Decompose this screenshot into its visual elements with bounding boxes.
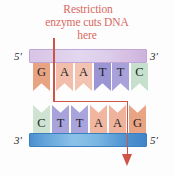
caption-text: Restriction enzyme cuts DNA here [0, 3, 174, 43]
top-base-2: A [56, 63, 73, 91]
top-base-5-letter: T [112, 66, 129, 79]
cut-line-vertical-right [127, 101, 129, 157]
top-base-6: C [131, 63, 148, 91]
top-base-4-letter: T [94, 66, 111, 79]
top-base-2-letter: A [56, 66, 73, 79]
bottom-strand-five-prime-label: 5' [150, 134, 158, 146]
top-base-6-letter: C [131, 66, 148, 79]
cut-line-vertical-left [53, 38, 55, 102]
top-strand-backbone [29, 49, 147, 63]
bottom-base-3: T [71, 105, 88, 133]
caption-line-1: Restriction [0, 3, 174, 16]
bottom-base-4-letter: A [90, 117, 107, 130]
caption-line-3: here [0, 29, 174, 42]
bottom-base-2: T [52, 105, 69, 133]
bottom-base-5-letter: A [109, 117, 126, 130]
top-base-4: T [94, 63, 111, 91]
bottom-base-5: A [109, 105, 126, 133]
top-base-1-letter: G [33, 66, 50, 79]
caption-line-2: enzyme cuts DNA [0, 16, 174, 29]
bottom-base-1-letter: C [33, 117, 50, 130]
top-base-3: A [75, 63, 92, 91]
bottom-strand-backbone [29, 133, 147, 147]
bottom-base-1: C [33, 105, 50, 133]
top-base-3-letter: A [75, 66, 92, 79]
bottom-base-2-letter: T [52, 117, 69, 130]
bottom-base-6-letter: G [129, 117, 146, 130]
cut-line-horizontal [53, 101, 128, 103]
bottom-base-3-letter: T [71, 117, 88, 130]
cut-arrow-icon [122, 154, 132, 166]
bottom-base-4: A [90, 105, 107, 133]
bottom-base-6: G [129, 105, 146, 133]
top-base-5: T [112, 63, 129, 91]
top-base-1: G [33, 63, 50, 91]
bottom-strand-three-prime-label: 3' [14, 134, 22, 146]
top-strand-five-prime-label: 5' [14, 50, 22, 62]
top-strand-three-prime-label: 3' [150, 50, 158, 62]
restriction-enzyme-diagram: Restriction enzyme cuts DNA here 5' 3' G… [0, 0, 174, 176]
